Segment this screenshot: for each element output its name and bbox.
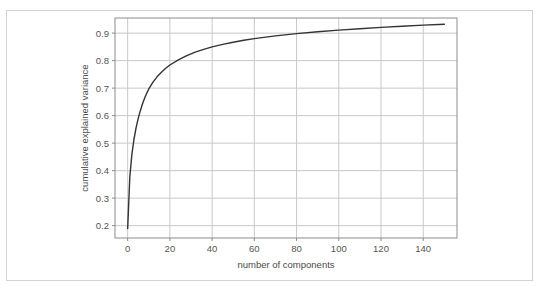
y-axis-title: cumulative explained variance bbox=[79, 64, 90, 191]
chart-canvas: 020406080100120140 0.20.30.40.50.60.70.8… bbox=[0, 0, 540, 289]
x-tick-label: 140 bbox=[415, 243, 431, 254]
y-tick-label: 0.4 bbox=[96, 165, 109, 176]
grid-lines bbox=[115, 18, 457, 238]
x-tick-label: 20 bbox=[165, 243, 176, 254]
y-tick-label: 0.6 bbox=[96, 110, 109, 121]
x-tick-label: 120 bbox=[373, 243, 389, 254]
y-axis-ticks: 0.20.30.40.50.60.70.80.9 bbox=[96, 28, 115, 232]
y-tick-label: 0.7 bbox=[96, 83, 109, 94]
y-tick-label: 0.3 bbox=[96, 193, 109, 204]
y-tick-label: 0.8 bbox=[96, 55, 109, 66]
x-tick-label: 0 bbox=[125, 243, 130, 254]
y-tick-label: 0.9 bbox=[96, 28, 109, 39]
y-tick-label: 0.5 bbox=[96, 138, 109, 149]
plot-area-border bbox=[115, 18, 457, 238]
x-axis-ticks: 020406080100120140 bbox=[125, 238, 431, 254]
x-tick-label: 40 bbox=[207, 243, 218, 254]
y-tick-label: 0.2 bbox=[96, 220, 109, 231]
chart-svg: 020406080100120140 0.20.30.40.50.60.70.8… bbox=[0, 0, 540, 289]
x-tick-label: 80 bbox=[291, 243, 302, 254]
x-tick-label: 60 bbox=[249, 243, 260, 254]
x-tick-label: 100 bbox=[331, 243, 347, 254]
x-axis-title: number of components bbox=[237, 259, 334, 270]
